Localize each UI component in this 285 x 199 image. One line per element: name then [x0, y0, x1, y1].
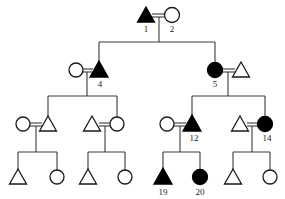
symbol-female-unaffected-g4-d2[interactable]	[263, 170, 277, 184]
symbol-female-unaffected-g3-a[interactable]	[16, 117, 30, 131]
symbol-male-unaffected-g3-b[interactable]	[40, 116, 57, 131]
label-individual-2: 2	[170, 24, 175, 34]
label-individual-14: 14	[263, 133, 273, 143]
symbol-male-affected-1[interactable]	[138, 7, 155, 22]
symbol-female-unaffected-g4-b2[interactable]	[118, 170, 132, 184]
pedigree-diagram: 1 2 4 5 12 14 19 20	[0, 0, 285, 199]
symbol-female-affected-20[interactable]	[193, 170, 208, 185]
label-individual-1: 1	[144, 24, 149, 34]
symbol-male-unaffected-spouse-of-14[interactable]	[232, 116, 249, 131]
pedigree-chart: 1 2 4 5 12 14 19 20	[0, 0, 285, 199]
label-individual-19: 19	[159, 187, 169, 197]
symbol-male-unaffected-g4-d1[interactable]	[225, 169, 242, 184]
symbol-female-unaffected-2[interactable]	[165, 8, 180, 23]
label-individual-4: 4	[98, 79, 103, 89]
symbol-male-unaffected-g4-b1[interactable]	[80, 169, 97, 184]
label-individual-12: 12	[190, 133, 199, 143]
symbol-female-affected-5[interactable]	[208, 63, 223, 78]
symbol-male-unaffected-g3-c[interactable]	[84, 116, 101, 131]
connector-lines	[18, 14, 270, 170]
label-individual-20: 20	[196, 187, 206, 197]
symbol-female-unaffected-spouse-of-4[interactable]	[69, 63, 83, 77]
generation-2-symbols	[69, 61, 250, 78]
symbol-female-unaffected-g3-d[interactable]	[110, 117, 124, 131]
symbol-female-unaffected-g4-a2[interactable]	[50, 170, 64, 184]
generation-4-symbols	[10, 168, 278, 185]
label-individual-5: 5	[213, 79, 218, 89]
symbol-male-affected-19[interactable]	[154, 168, 172, 184]
symbol-male-unaffected-spouse-of-5[interactable]	[233, 62, 250, 77]
generation-3-symbols	[16, 115, 273, 132]
symbol-female-affected-14[interactable]	[258, 117, 273, 132]
symbol-male-unaffected-g4-a1[interactable]	[10, 169, 27, 184]
symbol-female-unaffected-spouse-of-12[interactable]	[160, 117, 174, 131]
